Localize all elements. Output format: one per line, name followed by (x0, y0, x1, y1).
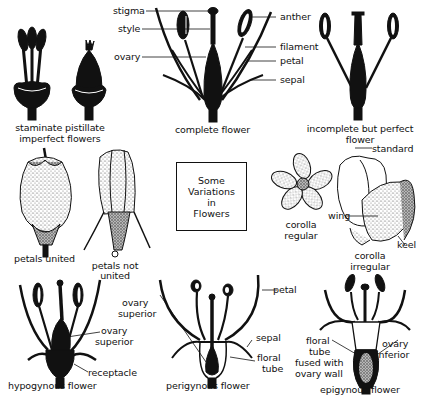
label-peri-superior: superior (118, 309, 156, 319)
label-ovary: ovary (114, 52, 140, 62)
label-hypo-ovary: ovary (101, 326, 127, 336)
label-peri-sepal: sepal (256, 333, 281, 343)
label-receptacle: receptacle (88, 368, 137, 378)
label-sepal: sepal (280, 75, 305, 85)
caption-incomplete-line1: incomplete but perfect (300, 124, 420, 134)
label-epi-inferior: inferior (376, 350, 409, 360)
caption-hypogynous-flower: hypogynous flower (8, 381, 97, 391)
incomplete-flower-illustration (320, 12, 399, 120)
caption-complete-flower: complete flower (160, 125, 265, 135)
label-style: style (118, 24, 140, 34)
label-anther: anther (280, 12, 311, 22)
label-peri-ovary: ovary (122, 298, 148, 308)
caption-corolla-regular-line2: regular (276, 231, 326, 241)
label-epi-ovary: ovary (382, 339, 408, 349)
caption-perigynous-flower: perigynous flower (166, 381, 250, 391)
staminate-flower-illustration (14, 27, 50, 120)
title-line-3: in (207, 197, 216, 208)
flower-variations-diagram: staminate pistillate imperfect flowers s… (0, 0, 421, 407)
pistillate-flower-illustration (72, 40, 106, 120)
label-peri-floral: floral (257, 353, 281, 363)
label-epi-tube: tube (309, 347, 330, 357)
label-peri-tube: tube (262, 364, 283, 374)
label-filament: filament (280, 42, 319, 52)
label-standard: standard (372, 144, 413, 154)
label-epi-floral: floral (306, 336, 330, 346)
petals-not-united-illustration (84, 150, 150, 257)
title-line-4: Flowers (193, 208, 229, 219)
caption-imperfect-flowers: imperfect flowers (6, 134, 114, 144)
corolla-irregular-illustration (337, 148, 414, 245)
caption-petals-not-line2: united (85, 271, 145, 281)
label-stigma: stigma (113, 6, 145, 16)
label-keel: keel (397, 240, 416, 250)
label-epi-fused: fused with (295, 358, 343, 368)
label-peri-petal: petal (273, 285, 297, 295)
caption-epigynous-flower: epigynous flower (320, 385, 400, 395)
label-hypo-superior: superior (95, 337, 133, 347)
label-petal: petal (280, 56, 304, 66)
caption-staminate-pistillate: staminate pistillate (6, 123, 114, 133)
petals-united-illustration (20, 148, 71, 257)
label-wing: wing (328, 211, 350, 221)
complete-flower-illustration (142, 8, 276, 123)
title-line-2: Variations (188, 186, 235, 197)
title-line-1: Some (198, 175, 225, 186)
caption-petals-united: petals united (14, 254, 75, 264)
corolla-regular-illustration (269, 151, 335, 213)
label-epi-ovary-wall: ovary wall (295, 369, 343, 379)
figure-title-box: Some Variations in Flowers (176, 162, 247, 231)
caption-corolla-regular-line1: corolla (276, 220, 326, 230)
caption-corolla-irregular-line1: corolla (340, 251, 400, 261)
caption-corolla-irregular-line2: irregular (340, 262, 400, 272)
